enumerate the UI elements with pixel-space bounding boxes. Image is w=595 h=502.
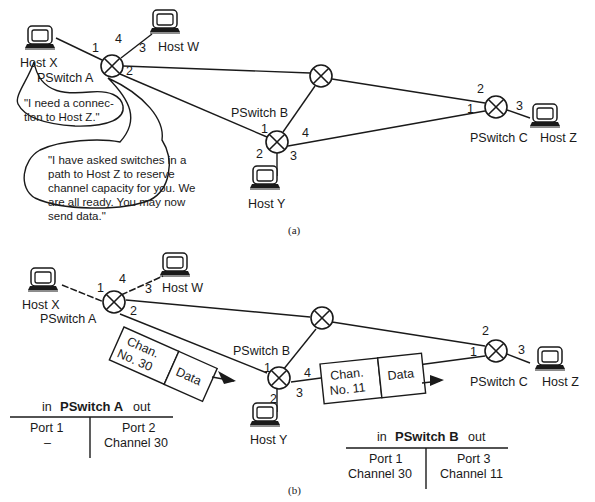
table-a-in-label: in — [42, 400, 52, 414]
port-c3: 3 — [516, 99, 523, 113]
port-b1: 1 — [261, 122, 268, 136]
table-b-in-channel: Channel 30 — [348, 467, 412, 481]
figure-a: Host X PSwitch A Host W PSwitch B Host Y… — [17, 10, 577, 237]
port-a2: 2 — [130, 304, 137, 318]
port-a3: 3 — [145, 282, 152, 296]
port-b3: 3 — [296, 386, 303, 400]
host-y-icon — [250, 403, 280, 426]
port-a4: 4 — [115, 32, 122, 46]
port-c1: 1 — [467, 102, 474, 116]
host-y-label: Host Y — [250, 433, 288, 447]
host-z-icon — [535, 347, 565, 370]
link-a-w-active — [121, 276, 163, 295]
table-b-in-label: in — [377, 430, 387, 444]
link-mid-c — [332, 79, 485, 103]
intermediate-switch-icon — [311, 307, 333, 329]
host-w-label: Host W — [158, 40, 199, 54]
host-y-label: Host Y — [248, 197, 286, 211]
host-x-icon — [25, 26, 55, 49]
link-a-mid — [126, 300, 310, 317]
bubble1-line2: tion to Host Z." — [24, 111, 100, 123]
port-b4: 4 — [304, 366, 311, 380]
table-b-out-label: out — [468, 430, 486, 444]
port-c2: 2 — [477, 82, 484, 96]
bubble2-line5: send data." — [48, 210, 106, 222]
bubble2-line3: channel capacity for you. We — [48, 182, 195, 194]
pswitch-b-icon — [268, 367, 290, 389]
pswitch-c-label: PSwitch C — [470, 131, 528, 145]
pswitch-a-icon — [101, 55, 123, 77]
intermediate-switch-icon — [310, 65, 332, 87]
figure-b: Chan. No. 30 Data Chan. No. 11 Data Host… — [10, 253, 579, 497]
table-b-out-port: Port 3 — [457, 452, 490, 466]
link-a-mid — [123, 66, 310, 73]
pswitch-b-table: in PSwitch B out Port 1 Channel 30 Port … — [346, 429, 508, 489]
port-b2: 2 — [270, 392, 277, 406]
table-a-title: PSwitch A — [60, 399, 124, 414]
caption-a: (a) — [288, 224, 301, 237]
pswitch-c-icon — [485, 340, 507, 362]
bubble2-line4: are all ready. You may now — [48, 196, 186, 208]
port-a2: 2 — [126, 64, 133, 78]
port-b3: 3 — [290, 149, 297, 163]
host-z-label: Host Z — [540, 131, 577, 145]
link-b-c — [288, 111, 485, 146]
host-x-label: Host X — [20, 56, 58, 70]
port-a1: 1 — [92, 41, 99, 55]
table-b-in-port: Port 1 — [369, 452, 402, 466]
port-a3: 3 — [139, 41, 146, 55]
host-z-icon — [530, 104, 560, 127]
bubble2-line2: path to Host Z to reserve — [48, 168, 175, 180]
port-c1: 1 — [470, 345, 477, 359]
link-mid-c — [332, 322, 485, 346]
pswitch-c-icon — [485, 96, 507, 118]
arrow-right-icon — [218, 371, 236, 384]
pswitch-a-table: in PSwitch A out Port 1 – Port 2 Channel… — [10, 399, 173, 458]
host-z-label: Host Z — [542, 375, 579, 389]
bubble1-line1: "I need a connec- — [24, 97, 114, 109]
host-w-icon — [160, 253, 190, 276]
table-a-out-channel: Channel 30 — [104, 436, 168, 450]
pswitch-b-icon — [266, 131, 288, 153]
caption-b: (b) — [288, 484, 301, 497]
packet-chan-11: Chan. No. 11 Data — [320, 353, 426, 403]
circuit-switching-diagram: Host X PSwitch A Host W PSwitch B Host Y… — [0, 0, 595, 502]
pswitch-a-icon — [103, 291, 125, 313]
table-a-out-port: Port 2 — [122, 421, 155, 435]
table-a-in-port: Port 1 — [30, 421, 63, 435]
table-a-in-channel: – — [44, 436, 51, 450]
arrow-right-icon — [430, 375, 444, 386]
table-b-title: PSwitch B — [395, 429, 459, 444]
port-a1: 1 — [97, 281, 104, 295]
port-c3: 3 — [518, 343, 525, 357]
pswitch-c-label: PSwitch C — [470, 375, 528, 389]
link-a-w — [121, 34, 152, 58]
host-x-icon — [28, 268, 58, 291]
host-w-label: Host W — [162, 281, 203, 295]
port-b4: 4 — [302, 126, 309, 140]
pswitch-a-label: PSwitch A — [40, 312, 97, 326]
pswitch-a-label: PSwitch A — [37, 71, 94, 85]
host-w-icon — [150, 10, 180, 33]
packet2-data-label: Data — [387, 366, 415, 383]
port-a4: 4 — [119, 272, 126, 286]
host-x-label: Host X — [22, 298, 60, 312]
host-y-icon — [250, 166, 280, 189]
pswitch-b-label: PSwitch B — [233, 344, 290, 358]
pswitch-b-label: PSwitch B — [231, 106, 288, 120]
bubble2-line1: "I have asked switches in a — [48, 154, 187, 166]
port-b1: 1 — [264, 361, 271, 375]
table-a-out-label: out — [133, 400, 151, 414]
port-b2: 2 — [256, 147, 263, 161]
table-b-out-channel: Channel 11 — [440, 467, 503, 481]
port-c2: 2 — [482, 324, 489, 338]
packet-chan-30: Chan. No. 30 Data — [109, 327, 217, 401]
